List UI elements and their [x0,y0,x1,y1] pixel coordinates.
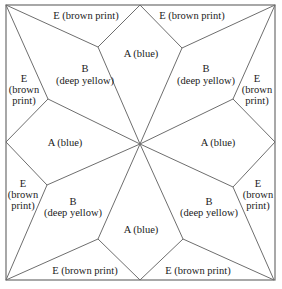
label-b-bottom-right-color: (deep yellow) [180,207,239,219]
label-e-left-top-letter: E [21,73,27,84]
quilt-block-diagram: E (brown print) E (brown print) A (blue)… [0,0,282,289]
label-a-top: A (blue) [124,48,159,60]
label-a-left: A (blue) [48,137,83,149]
label-e-right-top-l2: print) [245,95,269,107]
label-b-bottom-left-letter: B [69,196,76,207]
label-a-right: A (blue) [201,137,236,149]
label-e-top-left: E (brown print) [53,10,119,22]
label-e-top-right: E (brown print) [159,10,225,22]
label-b-top-left-color: (deep yellow) [56,75,115,87]
label-b-top-left-letter: B [81,63,88,74]
label-b-top-right-letter: B [202,63,209,74]
label-e-right-bottom-l2: print) [246,200,270,212]
label-b-bottom-right-letter: B [205,196,212,207]
label-e-bottom-left: E (brown print) [52,265,118,277]
label-e-left-bottom-l2: print) [11,200,35,212]
label-e-right-top-letter: E [254,73,260,84]
label-a-bottom: A (blue) [124,224,159,236]
label-b-top-right-color: (deep yellow) [177,75,236,87]
label-e-left-bottom-letter: E [20,178,26,189]
label-e-right-bottom-letter: E [255,178,261,189]
label-b-bottom-left-color: (deep yellow) [44,207,103,219]
label-e-bottom-right: E (brown print) [165,265,231,277]
label-e-left-top-l2: print) [12,95,36,107]
